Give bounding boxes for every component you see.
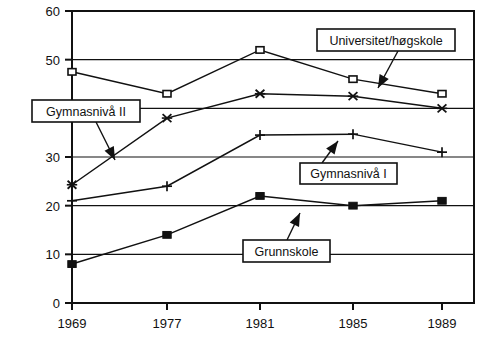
label-box-universitet-h-gskole[interactable]: Universitet/høgskole bbox=[317, 29, 455, 51]
data-point-3-0 bbox=[68, 261, 76, 268]
label-box-text-grunnskole: Grunnskole bbox=[255, 245, 319, 259]
data-point-2-4 bbox=[437, 147, 447, 157]
label-box-text-gymnasniv-i: Gymnasnivå I bbox=[310, 167, 386, 181]
data-point-2-2 bbox=[255, 130, 265, 140]
label-box-gymnasniv-ii[interactable]: Gymnasnivå II bbox=[32, 100, 140, 122]
label-box-text-universitet-h-gskole: Universitet/høgskole bbox=[329, 34, 442, 48]
data-point-3-3 bbox=[349, 202, 357, 209]
series-0 bbox=[68, 47, 446, 97]
data-point-3-4 bbox=[438, 197, 446, 204]
y-tick-label-0: 0 bbox=[53, 296, 60, 311]
y-tick-label-60: 60 bbox=[46, 4, 60, 19]
data-point-0-0 bbox=[68, 69, 76, 75]
x-tick-label-1985: 1985 bbox=[339, 316, 368, 331]
line-chart: 0102030405060 19691977198119851989 Unive… bbox=[0, 0, 491, 337]
data-point-0-1 bbox=[163, 91, 171, 97]
x-tick-label-1969: 1969 bbox=[58, 316, 87, 331]
y-tick-label-10: 10 bbox=[46, 247, 60, 262]
callout-arrowhead-universitet-h-gskole bbox=[378, 74, 389, 88]
chart-container: 0102030405060 19691977198119851989 Unive… bbox=[0, 0, 491, 337]
y-tick-label-30: 30 bbox=[46, 150, 60, 165]
data-point-2-3 bbox=[348, 129, 358, 139]
data-point-2-1 bbox=[162, 181, 172, 191]
x-axis: 19691977198119851989 bbox=[58, 303, 457, 331]
label-box-text-gymnasniv-ii: Gymnasnivå II bbox=[46, 105, 126, 119]
data-point-0-3 bbox=[349, 76, 357, 82]
y-tick-label-20: 20 bbox=[46, 199, 60, 214]
data-point-2-0 bbox=[67, 196, 77, 206]
data-point-1-3 bbox=[348, 92, 358, 100]
data-point-0-2 bbox=[256, 47, 264, 53]
callout-arrowhead-grunnskole bbox=[290, 213, 300, 227]
data-point-1-1 bbox=[162, 114, 172, 122]
x-tick-label-1989: 1989 bbox=[428, 316, 457, 331]
x-tick-label-1977: 1977 bbox=[153, 316, 182, 331]
x-tick-label-1981: 1981 bbox=[246, 316, 275, 331]
label-box-gymnasniv-i[interactable]: Gymnasnivå I bbox=[300, 163, 397, 184]
y-tick-label-50: 50 bbox=[46, 53, 60, 68]
data-point-1-4 bbox=[437, 104, 447, 112]
label-box-grunnskole[interactable]: Grunnskole bbox=[243, 240, 330, 262]
data-point-0-4 bbox=[438, 91, 446, 97]
data-point-3-2 bbox=[256, 193, 264, 200]
callout-arrowhead-gymnasniv-i bbox=[326, 141, 338, 155]
data-point-1-2 bbox=[255, 90, 265, 98]
data-point-3-1 bbox=[163, 231, 171, 238]
